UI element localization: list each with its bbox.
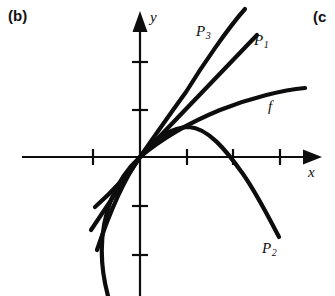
panel-label-c: (c	[313, 9, 326, 24]
taylor-polynomial-plot	[0, 0, 335, 296]
curve-label-p2-subscript: 2	[272, 247, 277, 258]
figure-panel-b: (b) (c P3 P1 f P2 y x	[0, 0, 335, 296]
curve-label-p2-base: P	[262, 240, 271, 256]
x-axis-arrowhead	[303, 150, 322, 165]
curve-label-p3-base: P	[196, 23, 205, 39]
curve-label-f-base: f	[268, 98, 272, 114]
curve-label-p3-subscript: 3	[206, 30, 211, 41]
axes-group	[22, 11, 322, 296]
curve-label-p1-base: P	[254, 32, 263, 48]
x-axis-label: x	[308, 165, 315, 180]
curve-label-p3: P3	[196, 24, 210, 39]
curve-label-f: f	[268, 99, 272, 114]
curve-label-p1-subscript: 1	[264, 39, 269, 50]
curve-label-p2: P2	[262, 241, 276, 256]
curve-p2	[97, 127, 279, 250]
curve-f	[102, 88, 305, 296]
y-axis-label: y	[150, 10, 157, 25]
y-axis-arrowhead	[133, 11, 148, 32]
panel-label-b: (b)	[8, 8, 27, 23]
curve-label-p1: P1	[254, 33, 268, 48]
